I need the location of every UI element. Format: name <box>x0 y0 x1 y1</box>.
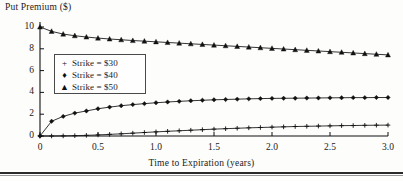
footer-rule <box>0 172 403 174</box>
legend-label-strike-40: Strike = $40 <box>72 70 118 80</box>
x-tick-label: 0 <box>27 142 53 152</box>
legend-item-strike-50: ▲ Strike = $50 <box>59 81 145 93</box>
legend-item-strike-30: + Strike = $30 <box>59 57 145 69</box>
put-premium-figure: Put Premium ($) 0246810 00.51.01.52.02.5… <box>0 0 403 181</box>
y-tick-label: 2 <box>16 108 34 118</box>
y-tick-label: 6 <box>16 65 34 75</box>
legend-label-strike-50: Strike = $50 <box>72 82 118 92</box>
y-tick-label: 8 <box>16 43 34 53</box>
y-tick-label: 4 <box>16 86 34 96</box>
x-tick-label: 3.0 <box>375 142 401 152</box>
x-tick-label: 2.5 <box>317 142 343 152</box>
x-axis-label: Time to Expiration (years) <box>0 158 403 168</box>
y-tick-label: 10 <box>16 21 34 31</box>
x-tick-label: 0.5 <box>85 142 111 152</box>
y-tick-label: 0 <box>16 130 34 140</box>
legend-item-strike-40: ♦ Strike = $40 <box>59 69 145 81</box>
triangle-marker-icon: ▲ <box>59 83 70 92</box>
x-tick-label: 1.0 <box>143 142 169 152</box>
legend: + Strike = $30 ♦ Strike = $40 ▲ Strike =… <box>54 54 146 94</box>
legend-label-strike-30: Strike = $30 <box>72 58 118 68</box>
plus-marker-icon: + <box>59 59 70 68</box>
footer-rule-shadow <box>0 175 403 176</box>
x-tick-label: 1.5 <box>201 142 227 152</box>
diamond-marker-icon: ♦ <box>59 71 70 80</box>
x-tick-label: 2.0 <box>259 142 285 152</box>
